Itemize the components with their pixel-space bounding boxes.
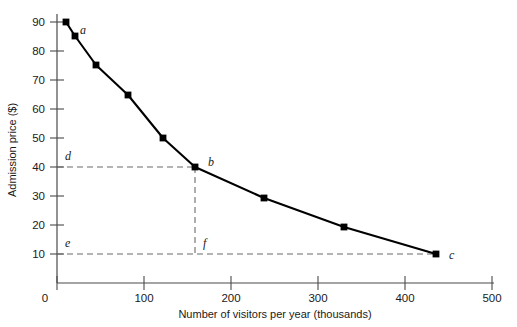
data-point-markers: [63, 19, 440, 258]
x-tick-300: 300: [308, 292, 327, 304]
data-point-b: [192, 164, 199, 171]
y-tick-60: 60: [32, 103, 45, 115]
x-axis-title: Number of visitors per year (thousands): [178, 308, 371, 320]
demand-curve-chart: 90 80 70 60 50 40 30 20 10 0 100 200 300…: [0, 0, 517, 327]
y-tick-20: 20: [32, 219, 45, 231]
x-tick-400: 400: [395, 292, 414, 304]
chart-container: 90 80 70 60 50 40 30 20 10 0 100 200 300…: [0, 0, 517, 327]
data-point-2: [72, 33, 79, 40]
y-axis-title: Admission price ($): [6, 103, 18, 197]
data-point-4: [125, 92, 132, 99]
data-point-c: [433, 251, 440, 258]
y-tick-50: 50: [32, 132, 45, 144]
x-tick-500: 500: [482, 292, 501, 304]
axis-lines: [57, 14, 494, 283]
y-tick-40: 40: [32, 161, 45, 173]
point-annotations: a b c d e f: [65, 23, 455, 262]
y-tick-10: 10: [32, 248, 45, 260]
y-tick-30: 30: [32, 190, 45, 202]
x-axis-tick-labels: 0 100 200 300 400 500: [42, 292, 502, 304]
data-point-3: [93, 62, 100, 69]
data-point-5: [160, 135, 167, 142]
annotation-e: e: [65, 236, 71, 250]
annotation-d: d: [65, 149, 72, 163]
annotation-f: f: [203, 236, 208, 250]
y-tick-90: 90: [32, 16, 45, 28]
data-point-8: [341, 224, 348, 231]
y-tick-70: 70: [32, 74, 45, 86]
x-tick-100: 100: [134, 292, 153, 304]
annotation-a: a: [80, 23, 86, 37]
x-tick-200: 200: [221, 292, 240, 304]
demand-curve-line: [66, 22, 436, 254]
data-point-7: [261, 195, 268, 202]
annotation-b: b: [208, 155, 214, 169]
annotation-c: c: [449, 248, 455, 262]
guide-lines: [57, 167, 436, 254]
y-tick-80: 80: [32, 45, 45, 57]
x-tick-0: 0: [42, 292, 48, 304]
y-axis-tick-labels: 90 80 70 60 50 40 30 20 10: [32, 16, 45, 260]
data-point-a: [63, 19, 70, 26]
